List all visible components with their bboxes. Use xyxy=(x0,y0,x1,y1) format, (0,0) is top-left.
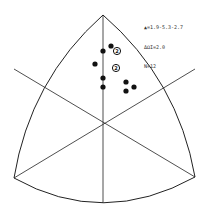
point-count-label: 2 xyxy=(114,65,118,71)
data-point xyxy=(123,88,128,93)
legend: ▲=1.9-5.3-2.7 ΔΩI=2.0 N=12 xyxy=(144,11,183,76)
data-point: 2 xyxy=(112,64,119,71)
data-point xyxy=(100,84,105,89)
bottom-arc xyxy=(14,177,195,203)
legend-sample-count: N=12 xyxy=(144,63,183,70)
legend-mean-orientation: ▲=1.9-5.3-2.7 xyxy=(144,24,183,31)
data-point xyxy=(131,84,136,89)
data-points: 22 xyxy=(92,43,136,93)
point-count-label: 2 xyxy=(115,48,119,54)
data-point xyxy=(108,43,113,48)
data-point xyxy=(100,75,105,80)
data-point: 2 xyxy=(113,47,120,54)
data-point xyxy=(123,79,128,84)
left-arc xyxy=(14,15,103,178)
data-point xyxy=(100,48,105,53)
legend-delta: ΔΩI=2.0 xyxy=(144,44,183,51)
data-point xyxy=(92,61,97,66)
